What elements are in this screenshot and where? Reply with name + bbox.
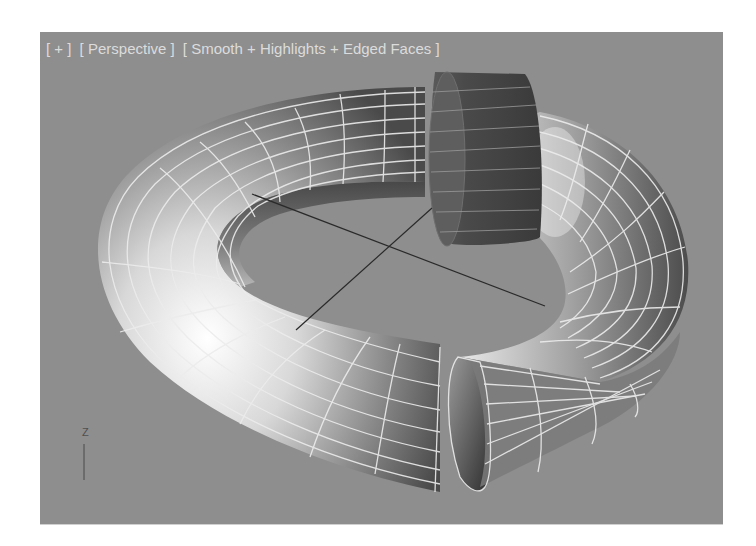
viewport-shading-menu[interactable]: [ Smooth + Highlights + Edged Faces ] <box>183 40 440 57</box>
scene-canvas[interactable] <box>40 32 723 524</box>
viewport-point-of-view-menu[interactable]: [ Perspective ] <box>80 40 175 57</box>
axis-gizmo-z-label: Z <box>82 426 89 438</box>
segment-cut-face <box>429 72 465 246</box>
perspective-viewport[interactable]: [ + ] [ Perspective ] [ Smooth + Highlig… <box>40 32 723 525</box>
torus-segment-selected[interactable] <box>429 72 542 246</box>
viewport-label-bar: [ + ] [ Perspective ] [ Smooth + Highlig… <box>46 40 444 57</box>
viewport-menu-plus[interactable]: [ + ] <box>46 40 71 57</box>
